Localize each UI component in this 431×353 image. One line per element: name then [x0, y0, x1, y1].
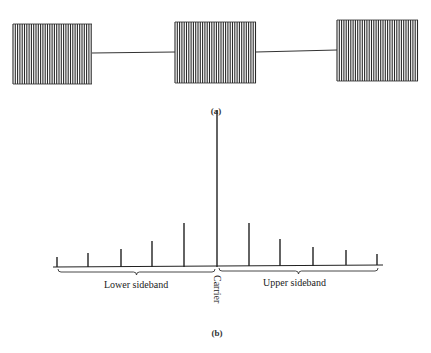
burst-1	[13, 24, 92, 84]
upper-sideband-brace	[219, 268, 378, 274]
carrier-label: Carrier	[212, 275, 223, 303]
sideband-spectrum	[53, 110, 383, 275]
upper-sideband-label: Upper sideband	[263, 277, 326, 288]
lower-sideband-brace	[58, 269, 215, 275]
lower-sideband-label: Lower sideband	[104, 279, 168, 290]
burst-3	[337, 20, 418, 81]
baseline-segment-1	[92, 52, 175, 53]
frequency-axis	[53, 265, 383, 267]
caption-a: (a)	[211, 106, 222, 116]
pulse-waveform	[13, 20, 418, 84]
burst-2	[175, 22, 256, 83]
baseline-segment-2	[256, 50, 337, 52]
caption-b: (b)	[212, 328, 223, 338]
